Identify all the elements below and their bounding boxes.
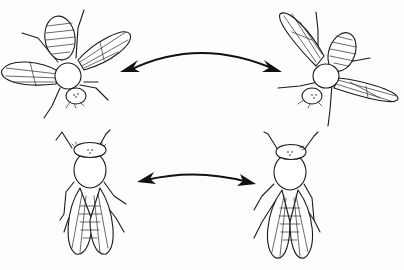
bottom-arrow [137, 172, 256, 186]
head [66, 88, 86, 104]
thorax [55, 63, 81, 89]
top-right-fly [278, 12, 398, 126]
top-left-fly [2, 10, 131, 118]
fly-illustration [0, 0, 404, 270]
top-arrow [120, 53, 282, 72]
thorax [313, 64, 339, 88]
left-wing [68, 188, 92, 254]
bottom-left-fly [56, 130, 126, 254]
right-wing [78, 32, 130, 70]
head [74, 143, 106, 158]
head [276, 145, 306, 160]
bottom-right-fly [254, 132, 320, 258]
right-wing [90, 188, 113, 254]
figure-canvas [0, 0, 404, 270]
head [302, 88, 322, 104]
abdomen [42, 14, 78, 62]
